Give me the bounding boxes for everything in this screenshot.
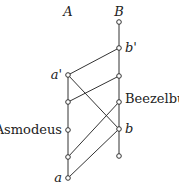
column-label-b: B [113, 4, 124, 19]
node-b2 [117, 74, 122, 79]
edge-a5-b4 [68, 129, 119, 178]
node-b0 [117, 20, 122, 25]
edge-a2-b2 [68, 76, 119, 102]
edge-a1-b1 [68, 48, 119, 75]
node-b3 [117, 100, 122, 105]
node-label-b-prime: b' [125, 40, 137, 55]
node-b4 [117, 127, 122, 132]
node-label-a-prime: a' [51, 67, 62, 82]
node-a1 [66, 73, 71, 78]
node-a2 [66, 100, 71, 105]
diagram: A B a' Asmodeus a b' Beezelbub b [0, 0, 179, 185]
column-label-a: A [62, 4, 72, 19]
node-label-a: a [54, 170, 62, 185]
edge-a4-b3 [68, 102, 119, 157]
node-b5 [117, 154, 122, 159]
node-label-b: b [125, 121, 133, 136]
node-label-asmodeus: Asmodeus [0, 122, 62, 137]
node-a3 [66, 128, 71, 133]
edge-a1-b4 [68, 75, 119, 129]
node-a4 [66, 155, 71, 160]
node-a5 [66, 176, 71, 181]
node-b1 [117, 46, 122, 51]
node-label-beezelbub: Beezelbub [125, 91, 179, 106]
